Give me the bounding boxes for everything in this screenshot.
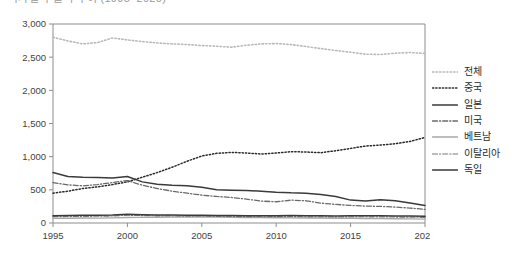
chart-legend: 전체중국일본미국베트남이탈리아독일 [432,64,516,178]
legend-line-swatch-icon [432,165,458,175]
legend-item-5[interactable]: 이탈리아 [432,145,516,161]
legend-item-6[interactable]: 독일 [432,162,516,178]
x-axis-tick-label: 2010 [266,230,287,241]
legend-item-label: 일본 [464,100,482,110]
legend-line-swatch-icon [432,83,458,93]
legend-item-label: 전체 [464,67,482,77]
x-axis-tick-label: 2015 [340,230,361,241]
legend-line-swatch-icon [432,149,458,159]
y-axis-tick-label: 1,500 [22,118,46,129]
y-axis-tick-label: 0 [41,217,46,228]
chart-figure: 국가별 수출액 추이 (1995–2020) 05001,0001,5002,0… [0,0,516,267]
plot-area: 05001,0001,5002,0002,5003,00019952000200… [0,0,430,252]
series-line-0 [53,37,425,54]
series-line-2 [53,173,425,206]
legend-item-1[interactable]: 중국 [432,80,516,96]
legend-item-0[interactable]: 전체 [432,64,516,80]
legend-item-3[interactable]: 미국 [432,113,516,129]
legend-item-label: 이탈리아 [464,149,500,159]
y-axis-tick-label: 500 [30,184,46,195]
y-axis-tick-label: 3,000 [22,18,46,29]
legend-item-label: 독일 [464,165,482,175]
x-axis-tick-label: 2005 [191,230,212,241]
y-axis-tick-label: 1,000 [22,151,46,162]
x-axis-tick-label: 2000 [117,230,138,241]
legend-item-label: 베트남 [464,132,491,142]
legend-line-swatch-icon [432,132,458,142]
y-axis-tick-label: 2,000 [22,85,46,96]
x-axis-tick-label: 2020 [414,230,430,241]
legend-line-swatch-icon [432,67,458,77]
legend-line-swatch-icon [432,100,458,110]
legend-item-label: 중국 [464,83,482,93]
series-line-1 [53,137,425,193]
line-chart-svg: 05001,0001,5002,0002,5003,00019952000200… [0,0,430,252]
legend-item-4[interactable]: 베트남 [432,129,516,145]
legend-item-2[interactable]: 일본 [432,97,516,113]
legend-line-swatch-icon [432,116,458,126]
legend-item-label: 미국 [464,116,482,126]
y-axis-tick-label: 2,500 [22,52,46,63]
x-axis-tick-label: 1995 [42,230,63,241]
